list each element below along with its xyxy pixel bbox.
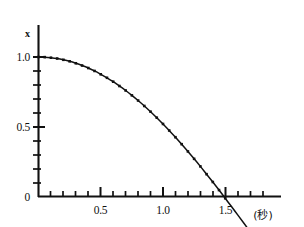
x-tick-label-1-5: 1.5 <box>219 204 233 216</box>
data-point-marker <box>87 67 90 70</box>
y-axis-label: x <box>25 28 30 39</box>
data-point-marker <box>205 173 208 176</box>
data-point-marker <box>62 58 65 61</box>
x-tick-label-1-0: 1.0 <box>156 204 170 216</box>
data-point-marker <box>99 73 102 76</box>
data-markers-group <box>37 56 226 200</box>
data-point-marker <box>106 76 109 79</box>
data-point-marker <box>212 181 215 184</box>
data-point-marker <box>56 57 59 60</box>
x-axis-unit-label: (秒) <box>253 208 273 222</box>
data-point-marker <box>124 89 127 92</box>
data-point-marker <box>81 64 84 67</box>
data-point-marker <box>37 56 40 59</box>
data-point-marker <box>180 143 183 146</box>
data-point-marker <box>68 60 71 63</box>
data-point-marker <box>168 129 171 132</box>
data-point-marker <box>199 165 202 168</box>
data-curve <box>39 57 257 227</box>
y-tick-label-0: 0 <box>25 191 31 203</box>
axes-group <box>38 25 281 197</box>
data-point-marker <box>224 197 227 200</box>
data-point-marker <box>131 94 134 97</box>
line-chart: 1.0 0.5 0 0.5 1.0 1.5 x (秒) <box>0 0 304 227</box>
figure-container: 1.0 0.5 0 0.5 1.0 1.5 x (秒) <box>0 0 304 227</box>
data-point-marker <box>50 56 53 59</box>
data-point-marker <box>75 62 78 65</box>
data-point-marker <box>187 150 190 153</box>
y-tick-label-1-0: 1.0 <box>17 51 31 63</box>
data-point-marker <box>143 105 146 108</box>
data-point-marker <box>93 70 96 73</box>
data-point-marker <box>193 158 196 161</box>
y-tick-label-0-5: 0.5 <box>17 121 31 133</box>
data-point-marker <box>43 56 46 59</box>
data-point-marker <box>149 110 152 113</box>
data-point-marker <box>137 99 140 102</box>
data-point-marker <box>174 136 177 139</box>
data-point-marker <box>218 189 221 192</box>
data-point-marker <box>155 116 158 119</box>
data-point-marker <box>118 85 121 88</box>
x-tick-label-0-5: 0.5 <box>94 204 108 216</box>
data-point-marker <box>162 123 165 126</box>
data-point-marker <box>112 80 115 83</box>
